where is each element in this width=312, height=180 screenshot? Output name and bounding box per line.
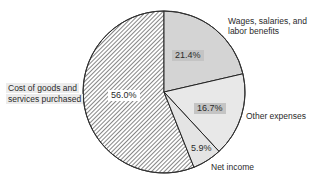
value-cost-of-goods: 56.0% <box>108 90 140 101</box>
label-other-expenses: Other expenses <box>246 111 306 121</box>
label-wages-line2: labor benefits <box>228 26 279 36</box>
label-cost-line1: Cost of goods and <box>6 83 79 93</box>
value-net-income: 5.9% <box>188 143 215 154</box>
value-wages: 21.4% <box>172 50 204 61</box>
label-net-income: Net income <box>211 162 254 172</box>
label-cost-line2: services purchased <box>6 94 83 104</box>
label-wages-line1: Wages, salaries, and <box>228 16 307 26</box>
value-other-expenses: 16.7% <box>194 103 226 114</box>
